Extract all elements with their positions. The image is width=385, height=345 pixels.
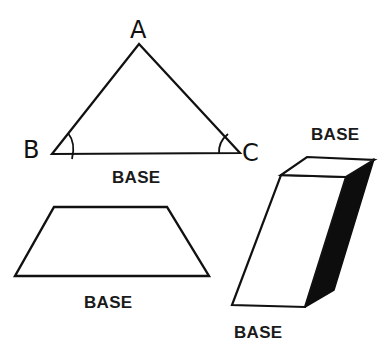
prism-top-base-label: BASE	[311, 125, 359, 144]
triangle-abc: A B C BASE	[23, 16, 259, 187]
diagram-canvas: A B C BASE BASE BASE BASE	[0, 0, 385, 345]
angle-b-arc-icon	[68, 133, 73, 159]
vertex-label-c: C	[242, 139, 259, 167]
geometry-bases-figure: A B C BASE BASE BASE BASE	[0, 0, 385, 345]
triangle-shape	[52, 44, 240, 154]
vertex-label-b: B	[23, 136, 39, 164]
prism-bottom-base-label: BASE	[234, 323, 282, 342]
triangle-base-label: BASE	[112, 168, 160, 187]
trapezoid-shape	[15, 207, 209, 276]
trapezoid: BASE	[15, 207, 209, 312]
vertex-label-a: A	[130, 16, 147, 44]
trapezoid-base-label: BASE	[84, 293, 132, 312]
